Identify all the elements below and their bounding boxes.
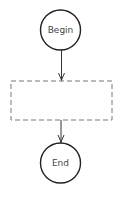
end-node: End — [41, 143, 81, 183]
edge-begin-to-process — [59, 50, 65, 81]
edge-process-to-end — [58, 120, 64, 143]
process-node — [11, 81, 112, 120]
dashed-process-box — [11, 81, 112, 120]
flowchart-diagram: Begin End — [0, 0, 120, 204]
begin-node: Begin — [41, 10, 81, 50]
end-label: End — [52, 158, 69, 168]
begin-label: Begin — [48, 25, 74, 35]
